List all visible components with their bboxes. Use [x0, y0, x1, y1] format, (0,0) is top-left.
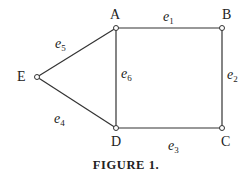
node-label-b: B [222, 8, 231, 22]
edge-e4 [37, 77, 116, 128]
graph-canvas [0, 0, 252, 181]
edge-label-e5: e5 [55, 37, 66, 55]
figure-caption: FIGURE 1. [0, 158, 252, 173]
edge-label-e1: e1 [163, 10, 174, 28]
node-label-a: A [110, 8, 120, 22]
node-d [114, 126, 119, 131]
node-label-d: D [111, 135, 121, 149]
node-label-c: C [221, 135, 230, 149]
node-c [220, 126, 225, 131]
edge-label-e3: e3 [168, 139, 179, 157]
node-label-e: E [17, 70, 26, 84]
edge-e5 [37, 28, 116, 77]
node-a [114, 26, 119, 31]
edge-label-e4: e4 [54, 112, 65, 130]
edge-label-e6: e6 [121, 67, 132, 85]
node-e [35, 75, 40, 80]
edge-label-e2: e2 [227, 68, 238, 86]
node-b [220, 26, 225, 31]
